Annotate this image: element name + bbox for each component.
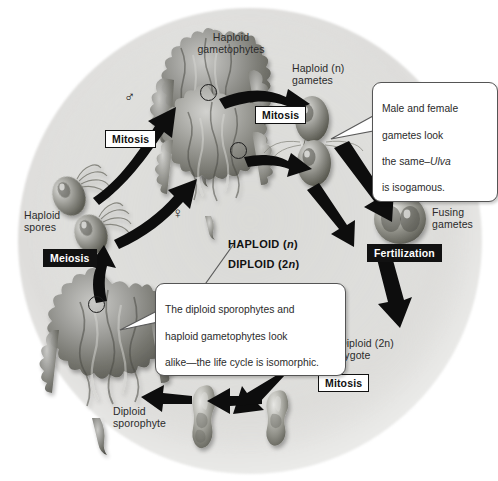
process-mitosis-bottom: Mitosis — [318, 374, 369, 392]
callout-isogamous-line4: is isogamous. — [382, 182, 445, 193]
origin-marker-sporophyte — [88, 296, 105, 313]
label-diploid-zygote: Diploid (2n) zygote — [339, 337, 431, 362]
callout-isogamous: Male and female gametes look the same–Ul… — [372, 82, 498, 202]
ploidy-haploid-pre: HAPLOID ( — [228, 238, 287, 250]
ploidy-haploid-n: n — [287, 238, 294, 250]
callout-isomorphic-line3: alike—the life cycle is isomorphic. — [165, 357, 319, 368]
germling-left — [192, 385, 215, 448]
germling-right — [266, 390, 288, 446]
process-mitosis-top: Mitosis — [255, 106, 306, 124]
origin-marker-female-gametophyte — [230, 142, 247, 159]
callout-isomorphic-line2: haploid gametophytes look — [165, 331, 288, 342]
arrow-mitosis-to-female — [114, 179, 197, 249]
callout-isogamous-line3-pre: the same– — [382, 156, 430, 167]
callout-isomorphic: The diploid sporophytes and haploid game… — [155, 283, 346, 376]
ploidy-diploid: DIPLOID (2n) — [228, 258, 299, 270]
label-haploid-gametophytes: Haploid gametophytes — [183, 31, 279, 56]
ploidy-haploid-post: ) — [294, 238, 298, 250]
leader-isogamous — [331, 116, 373, 139]
female-symbol: ♀ — [172, 205, 183, 220]
process-meiosis: Meiosis — [43, 249, 97, 267]
process-mitosis-left: Mitosis — [105, 130, 156, 148]
label-haploid-gametes: Haploid (n) gametes — [292, 62, 384, 87]
ploidy-haploid: HAPLOID (n) — [228, 238, 298, 250]
arrow-fertilization — [377, 253, 412, 328]
male-symbol: ♂ — [124, 89, 135, 104]
arrow-gamete-pair-diagonal — [307, 183, 355, 247]
process-fertilization: Fertilization — [367, 244, 442, 262]
label-diploid-sporophyte: Diploid sporophyte — [113, 405, 191, 430]
callout-isogamous-species: Ulva — [430, 156, 451, 167]
ulva-life-cycle-figure: Haploid gametophytes Haploid (n) gametes… — [0, 0, 498, 481]
ploidy-diploid-post: ) — [295, 258, 299, 270]
callout-isogamous-line2: gametes look — [382, 130, 443, 141]
origin-marker-male-gametophyte — [200, 84, 217, 101]
label-haploid-spores: Haploid spores — [24, 209, 86, 234]
callout-isogamous-line1: Male and female — [382, 103, 458, 114]
callout-isomorphic-line1: The diploid sporophytes and — [165, 304, 294, 315]
ploidy-diploid-pre: DIPLOID (2 — [228, 258, 288, 270]
label-fusing-gametes: Fusing gametes — [432, 206, 494, 231]
